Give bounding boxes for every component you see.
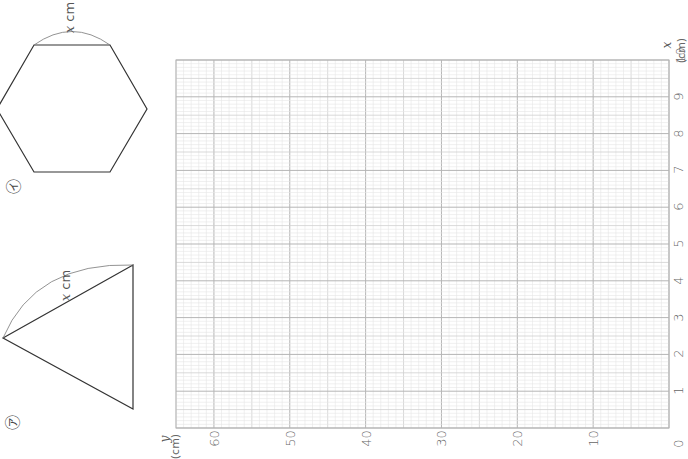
graph-grid	[176, 60, 669, 428]
y-axis-unit: (cm)	[169, 434, 182, 459]
x-axis-var: x	[660, 42, 674, 49]
hexagon-side-label: x cm	[62, 2, 77, 33]
x-axis-unit: (cm)	[675, 38, 688, 63]
triangle-side-unit: cm	[58, 270, 73, 290]
y-tick-label: 10	[586, 430, 601, 447]
figure-i-marker: ㋑	[2, 179, 23, 194]
hexagon-side-var: x	[62, 26, 77, 33]
hexagon-side-arc	[34, 32, 110, 46]
figure-a-marker: ㋐	[1, 415, 22, 430]
x-tick-label: 6	[671, 203, 686, 211]
y-tick-label: 20	[510, 430, 525, 447]
y-tick-label: 60	[207, 430, 222, 447]
x-tick-label: 7	[671, 166, 686, 174]
x-tick-label: 8	[671, 129, 686, 137]
x-tick-label: 2	[671, 350, 686, 358]
y-tick-label: 40	[358, 430, 373, 447]
x-tick-label: 5	[671, 239, 686, 247]
y-tick-label: 30	[434, 430, 449, 447]
x-tick-label: 9	[671, 92, 686, 100]
x-tick-label: 4	[671, 276, 686, 284]
x-tick-label: 1	[671, 387, 686, 395]
triangle-side-label: x cm	[58, 270, 73, 301]
x-tick-label: 3	[671, 313, 686, 321]
origin-label: 0	[671, 439, 686, 447]
y-tick-label: 50	[283, 430, 298, 447]
hexagon-shape	[0, 45, 147, 172]
hexagon-side-unit: cm	[62, 2, 77, 22]
triangle-side-var: x	[58, 294, 73, 301]
